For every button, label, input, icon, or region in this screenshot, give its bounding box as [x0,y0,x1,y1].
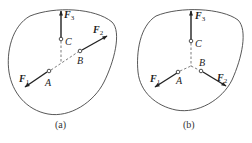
caption-b: (b) [183,119,195,131]
label-f3-b: F3 [194,10,206,23]
point-c-b [189,39,193,43]
point-b [78,49,82,53]
label-c-a: C [65,36,72,47]
dashed-line-b-junction [191,66,199,70]
dashed-line-a-b [51,52,78,70]
dashed-line-a-junction [180,66,191,71]
label-b-b: B [199,57,205,68]
label-f3-a: F3 [63,9,75,22]
label-f1-a: F1 [18,73,30,86]
panel-a: F3 F2 F1 C B A (a) [8,9,116,131]
label-a-b: A [175,75,183,86]
point-a-b [176,70,180,74]
label-c-b: C [195,38,202,49]
label-f1-b: F1 [149,73,161,86]
label-b-a: B [77,55,83,66]
force-diagram: F3 F2 F1 C B A (a) F3 F1 F2 C A B (b) [0,0,252,143]
caption-a: (a) [55,119,66,131]
label-a-a: A [44,77,52,88]
panel-b: F3 F1 F2 C A B (b) [138,10,244,131]
force-arrow-f2 [82,36,107,50]
point-c [59,37,63,41]
label-f2-a: F2 [92,24,104,37]
point-a [47,69,51,73]
point-b-b [199,69,203,73]
